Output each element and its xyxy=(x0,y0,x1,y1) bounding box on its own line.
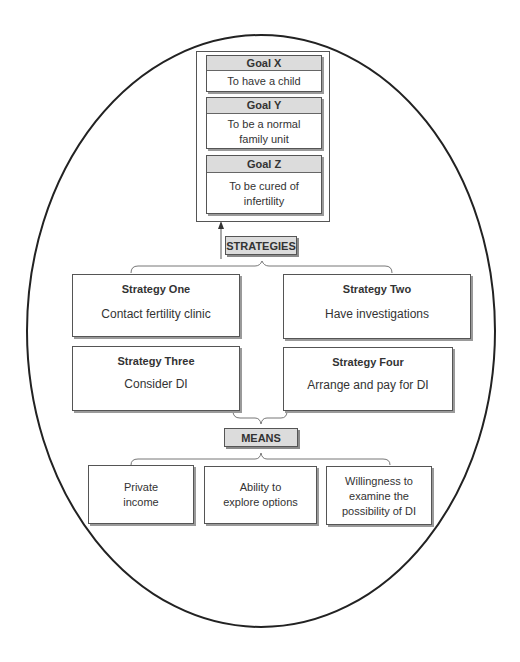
goal-y-title: Goal Y xyxy=(207,98,321,114)
strategy-four-title: Strategy Four xyxy=(284,356,452,368)
goal-y-box: Goal Y To be a normal family unit xyxy=(206,97,322,149)
strategies-to-means-brace xyxy=(233,411,287,424)
goal-x-title: Goal X xyxy=(207,56,321,71)
strategies-brace xyxy=(131,261,392,273)
arrowhead-icon xyxy=(218,221,224,229)
goal-y-text: To be a normal family unit xyxy=(228,117,301,147)
means-brace xyxy=(131,453,390,465)
strategy-two-text: Have investigations xyxy=(284,307,470,321)
strategy-one-box: Strategy One Contact fertility clinic xyxy=(72,274,240,337)
strategy-two-box: Strategy Two Have investigations xyxy=(283,274,471,339)
diagram: Goal X To have a child Goal Y To be a no… xyxy=(0,0,520,662)
strategy-three-text: Consider DI xyxy=(73,377,239,391)
strategies-label: STRATEGIES xyxy=(225,236,297,255)
goal-x-text: To have a child xyxy=(227,74,300,89)
means-label: MEANS xyxy=(224,428,298,447)
strategy-one-title: Strategy One xyxy=(73,283,239,295)
goal-z-box: Goal Z To be cured of infertility xyxy=(206,155,322,214)
means-ability-text: Ability to explore options xyxy=(205,480,316,510)
goal-x-box: Goal X To have a child xyxy=(206,55,322,92)
goal-z-title: Goal Z xyxy=(207,156,321,173)
strategy-four-box: Strategy Four Arrange and pay for DI xyxy=(283,347,453,411)
strategy-four-text: Arrange and pay for DI xyxy=(284,378,452,392)
strategy-three-box: Strategy Three Consider DI xyxy=(72,346,240,411)
means-willingness-box: Willingness to examine the possibility o… xyxy=(326,466,432,525)
strategy-two-title: Strategy Two xyxy=(284,283,470,295)
means-willingness-text: Willingness to examine the possibility o… xyxy=(327,473,431,518)
means-private-income-text: Private income xyxy=(89,480,193,510)
means-ability-box: Ability to explore options xyxy=(204,466,317,524)
strategy-one-text: Contact fertility clinic xyxy=(73,307,239,321)
goal-z-text: To be cured of infertility xyxy=(229,179,299,209)
means-private-income-box: Private income xyxy=(88,465,194,524)
strategy-three-title: Strategy Three xyxy=(73,355,239,367)
